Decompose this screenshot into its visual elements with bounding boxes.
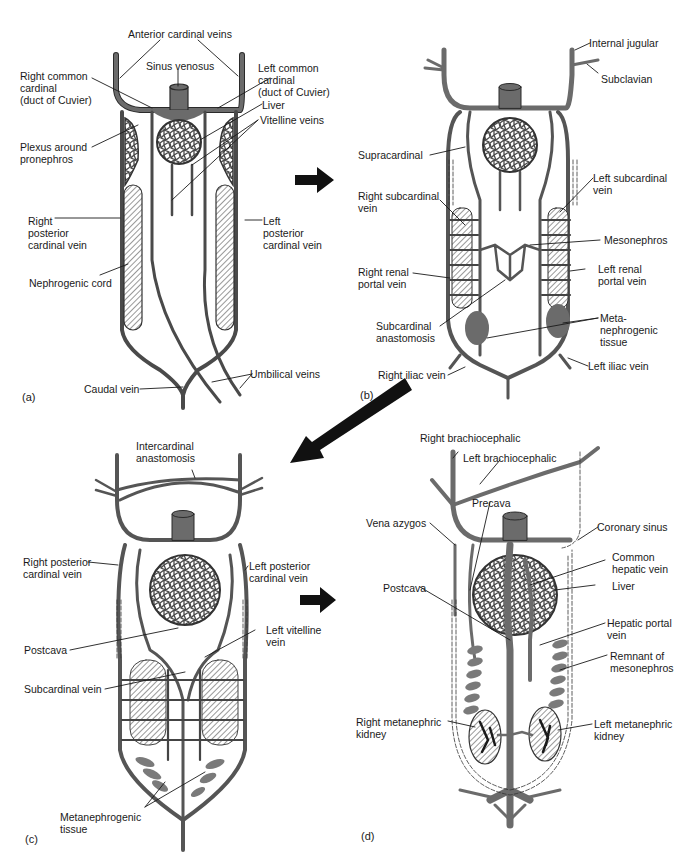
label-left-posterior-cardinal-c: Left posterior cardinal vein (249, 560, 310, 584)
label-hepatic-portal: Hepatic portal vein (607, 617, 672, 641)
venous-development-diagram (0, 0, 697, 859)
label-right-subcardinal: Right subcardinal vein (358, 190, 439, 214)
label-right-renal-portal: Right renal portal vein (358, 266, 409, 290)
label-right-posterior-cardinal-a: Right posterior cardinal vein (28, 215, 87, 251)
label-supracardinal: Supracardinal (358, 149, 423, 161)
label-caudal-vein: Caudal vein (84, 383, 139, 395)
label-right-iliac: Right iliac vein (378, 369, 446, 381)
panel-tag-a: (a) (22, 391, 35, 403)
label-right-common-cardinal: Right common cardinal (duct of Cuvier) (20, 70, 92, 106)
label-sinus-venosus: Sinus venosus (146, 60, 214, 72)
label-left-common-cardinal: Left common cardinal (duct of Cuvier) (258, 62, 330, 98)
label-right-posterior-cardinal-c: Right posterior cardinal vein (23, 556, 91, 580)
label-vena-azygos: Vena azygos (366, 517, 426, 529)
label-left-renal-portal: Left renal portal vein (598, 263, 646, 287)
label-nephrogenic-cord: Nephrogenic cord (29, 277, 112, 289)
panel-d (420, 448, 607, 825)
label-precava: Precava (472, 497, 511, 509)
arrow-b-to-c (290, 378, 412, 463)
label-left-vitelline: Left vitelline vein (266, 624, 321, 648)
label-left-metanephric: Left metanephric kidney (594, 718, 672, 742)
label-liver-d: Liver (612, 580, 635, 592)
label-left-iliac: Left iliac vein (588, 360, 649, 372)
label-metanephrogenic-c: Metanephrogenic tissue (60, 811, 141, 835)
panel-tag-b: (b) (360, 389, 373, 401)
label-right-metanephric: Right metanephric kidney (356, 716, 441, 740)
panel-tag-d: (d) (361, 830, 374, 842)
label-left-posterior-cardinal-a: Left posterior cardinal vein (263, 215, 322, 251)
label-remnant-mesonephros: Remnant of mesonephros (610, 650, 674, 674)
label-liver-a: Liver (262, 99, 285, 111)
label-postcava-c: Postcava (24, 644, 67, 656)
label-metanephrogenic-b: Meta- nephrogenic tissue (600, 312, 658, 348)
label-common-hepatic: Common hepatic vein (612, 551, 668, 575)
panel-c (70, 455, 262, 850)
arrow-c-to-d (300, 587, 336, 613)
label-intercardinal-anastomosis: Intercardinal anastomosis (136, 440, 195, 464)
label-right-brachiocephalic: Right brachiocephalic (420, 432, 520, 444)
label-subcardinal-vein: Subcardinal vein (24, 683, 102, 695)
label-mesonephros: Mesonephros (604, 234, 668, 246)
label-anterior-cardinal-veins: Anterior cardinal veins (128, 28, 232, 40)
label-coronary-sinus: Coronary sinus (597, 521, 668, 533)
label-subclavian: Subclavian (601, 73, 652, 85)
label-internal-jugular: Internal jugular (589, 37, 658, 49)
label-vitelline-veins: Vitelline veins (260, 114, 324, 126)
label-left-brachiocephalic: Left brachiocephalic (463, 452, 556, 464)
arrow-a-to-b (295, 167, 334, 193)
panel-tag-c: (c) (25, 833, 38, 845)
label-plexus-pronephros: Plexus around pronephros (20, 141, 87, 165)
label-subcardinal-anastomosis: Subcardinal anastomosis (376, 320, 435, 344)
panel-b (413, 43, 600, 398)
label-postcava-d: Postcava (383, 582, 426, 594)
label-left-subcardinal: Left subcardinal vein (593, 172, 667, 196)
label-umbilical-veins: Umbilical veins (250, 368, 320, 380)
